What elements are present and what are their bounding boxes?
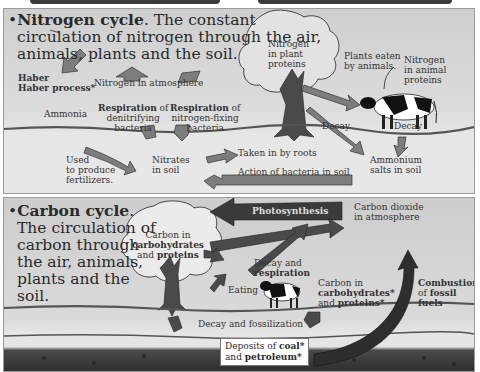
ammonia-label: Ammonia (44, 109, 87, 119)
carbon-cycle-panel: •Carbon cycle. The circulation of carbon… (3, 197, 475, 372)
decay-respiration-label: Decay andrespiration (254, 258, 310, 278)
taken-by-roots-label: Taken in by roots (238, 148, 317, 158)
arrow-action-bacteria (204, 175, 352, 189)
animal-proteins-label: Nitrogenin animalproteins (404, 55, 446, 85)
nitrogen-cycle-panel: •Nitrogen cycle. The constant circulatio… (3, 8, 475, 194)
arrow-root-decay (168, 316, 182, 332)
tree-carbon-label: Carbon in carbohydrates and proteins (132, 230, 204, 260)
ammonium-label: Ammoniumsalts in soil (370, 155, 422, 175)
nitrogen-atmosphere-label: Nitrogen in atmosphere (94, 78, 203, 88)
top-border-left (30, 0, 220, 4)
arrow-animal-decay (304, 312, 320, 328)
decay-label-plant: Decay (322, 121, 350, 131)
deposits-box: Deposits of coal* and petroleum* (220, 338, 309, 366)
plants-eaten-label: Plants eatenby animals. (344, 51, 401, 71)
cow-icon (260, 281, 300, 308)
arrow-decay-animal (394, 137, 408, 157)
action-bacteria-label: Action of bacteria in soil (238, 167, 350, 177)
animal-carbon-label: Carbon in carbohydrates* and proteins* (318, 278, 395, 308)
arrow-combustion (314, 250, 418, 366)
arrow-roots (206, 149, 238, 163)
arrow-eating-2 (210, 274, 226, 292)
combustion-label: Combustion of fossil fuels (418, 278, 475, 308)
plant-proteins-label: Nitrogenin plantproteins (268, 39, 309, 69)
respiration-fixing-label: Respiration of nitrogen-fixing bacteria (170, 103, 240, 133)
eating-label: Eating (228, 285, 258, 295)
nitrates-label: Nitratesin soil (152, 155, 190, 175)
fertilizers-label: Usedto producefertilizers. (66, 155, 115, 185)
arrow-plants-eaten (302, 85, 360, 111)
top-border-right (258, 0, 452, 4)
respiration-denitrifying-label: Respiration of denitrifying bacteria (98, 103, 168, 133)
decay-fossilization-label: Decay and fossilization (198, 319, 303, 329)
photosynthesis-label: Photosynthesis (252, 206, 328, 216)
decay-label-animal: Decay (394, 121, 422, 131)
co2-label: Carbon dioxidein atmosphere (354, 202, 424, 222)
haber-process-label: HaberHaber process* (18, 73, 95, 93)
